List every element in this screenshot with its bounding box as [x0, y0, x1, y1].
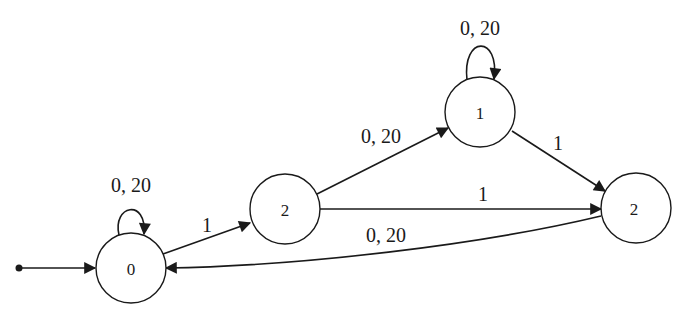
edge-label: 1	[478, 183, 488, 205]
state-label: 2	[630, 200, 639, 219]
initial-dot	[16, 265, 23, 272]
edge-label: 0, 20	[111, 174, 151, 196]
edge-n2a-n1: 0, 20	[317, 125, 448, 194]
state-label: 2	[281, 201, 290, 220]
edge-n1-n2b: 1	[512, 131, 605, 191]
edge-n0-n2a: 1	[163, 214, 250, 254]
edge-n2a-n2b: 1	[320, 183, 601, 209]
state-label: 1	[476, 104, 485, 123]
state-node-2-middle: 2	[250, 174, 320, 244]
state-label: 0	[127, 260, 136, 279]
edge-n0-self: 0, 20	[111, 174, 151, 235]
edge-label: 0, 20	[361, 125, 401, 147]
initial-state-marker	[16, 265, 96, 272]
edge-n1-self: 0, 20	[460, 17, 500, 80]
edge-label: 0, 20	[460, 17, 500, 39]
state-node-1: 1	[445, 77, 515, 147]
edge-label: 1	[202, 214, 212, 236]
edge-n2b-n0: 0, 20	[166, 216, 601, 268]
state-node-0: 0	[96, 233, 166, 303]
edge-label: 0, 20	[366, 224, 406, 246]
edge-label: 1	[553, 132, 563, 154]
state-diagram: 0, 20 1 0, 20 0, 20 1 1 0, 20 0 2 1	[0, 0, 682, 310]
state-node-2-right: 2	[601, 173, 671, 243]
